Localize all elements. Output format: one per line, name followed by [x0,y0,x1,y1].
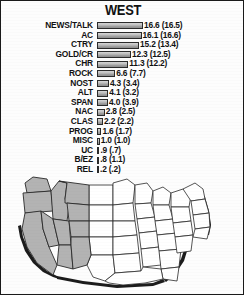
bar-fill [97,118,103,125]
bar-fill [97,99,108,106]
bar [97,99,108,106]
bar-fill [97,128,101,135]
bar-fill [97,80,109,87]
bar-fill [97,61,128,68]
chart-row: NEWS/TALK16.6 (16.5) [1,21,241,31]
chart-row: AC16.1 (16.6) [1,31,241,41]
bar [97,80,109,87]
bar-fill [97,90,108,97]
bar [97,138,100,145]
bar-fill [97,70,115,77]
united-states-map [1,173,243,294]
bar [97,90,108,97]
bar-fill [97,22,143,29]
bar [97,157,99,164]
bar-fill [97,138,100,145]
chart-row: CTRY15.2 (13.4) [1,40,241,50]
bar [97,42,139,49]
format-share-bar-chart: NEWS/TALK16.6 (16.5)AC16.1 (16.6)CTRY15.… [1,21,241,169]
bar-fill [97,32,142,39]
bar [97,32,142,39]
bar [97,109,105,116]
chart-row: B/EZ.8 (1.1) [1,155,241,165]
bar [97,51,131,58]
bar [97,70,115,77]
page-title: WEST [11,2,235,18]
format-label: MISC [1,136,93,146]
bar-fill [97,42,139,49]
chart-panel: WEST NEWS/TALK16.6 (16.5)AC16.1 (16.6)CT… [0,0,244,295]
bar [97,118,103,125]
us-map-svg [13,173,231,291]
bar-fill [97,109,105,116]
chart-row: GOLD/CR12.3 (12.5) [1,50,241,60]
bar [97,128,101,135]
bar [97,22,143,29]
chart-row: MISC1.0 (1.0) [1,136,241,146]
bar-fill [97,147,99,154]
bar-fill [97,157,99,164]
bar [97,61,128,68]
bar-fill [97,51,131,58]
bar [97,147,99,154]
format-label: NEWS/TALK [1,21,93,31]
us-states-base [87,179,210,285]
